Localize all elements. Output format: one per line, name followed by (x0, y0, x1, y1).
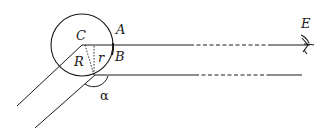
arc-AB (112, 43, 113, 55)
diagram-canvas: C A B R r E α (0, 0, 333, 138)
label-alpha: α (100, 88, 109, 103)
label-r: r (98, 50, 105, 65)
label-E: E (300, 16, 311, 31)
label-B: B (114, 49, 125, 64)
label-A: A (115, 22, 125, 37)
label-C: C (76, 28, 86, 43)
lower-diagonal-ray (35, 75, 95, 128)
radius-R-dotted (85, 45, 94, 75)
upper-diagonal-ray (17, 45, 82, 106)
label-R: R (73, 54, 84, 69)
